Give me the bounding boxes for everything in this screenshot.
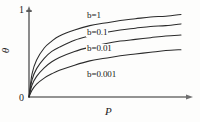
curve-label-b-0-001: b=0.001 [86, 70, 117, 79]
curve-label-b-0-1: b=0.1 [86, 28, 108, 37]
y-axis-title: θ [0, 48, 11, 53]
curve-label-b-1: b=1 [86, 11, 102, 20]
origin-label: 0 [19, 93, 24, 103]
y-axis-tick-label-1: 1 [19, 5, 24, 15]
x-axis-arrowhead [186, 94, 193, 99]
x-axis-title: P [105, 106, 112, 117]
chart-figure: 1 0 θ P b=1 b=0.1 b=0.01 b=0.001 [0, 0, 200, 122]
curve-label-b-0-01: b=0.01 [86, 44, 113, 53]
